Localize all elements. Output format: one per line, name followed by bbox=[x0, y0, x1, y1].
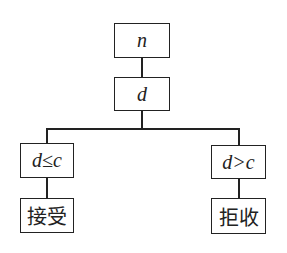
connector-left-down bbox=[46, 128, 48, 143]
connector-n-d bbox=[141, 58, 143, 77]
connector-d-split bbox=[141, 111, 143, 129]
node-accept: 接受 bbox=[20, 198, 74, 233]
condition-gt-label: d>c bbox=[222, 151, 254, 174]
node-condition-gt: d>c bbox=[211, 145, 266, 179]
connector-horizontal bbox=[46, 128, 239, 130]
node-condition-le: d≤c bbox=[20, 143, 74, 178]
node-n-label: n bbox=[137, 29, 147, 52]
condition-le-label: d≤c bbox=[32, 149, 62, 172]
connector-right-down bbox=[238, 128, 240, 145]
connector-left-result bbox=[46, 178, 48, 198]
node-n: n bbox=[114, 23, 170, 58]
node-d-label: d bbox=[137, 83, 147, 106]
accept-label: 接受 bbox=[27, 201, 67, 230]
connector-right-result bbox=[238, 179, 240, 198]
node-d: d bbox=[114, 77, 170, 111]
reject-label: 拒收 bbox=[219, 202, 259, 231]
node-reject: 拒收 bbox=[211, 198, 266, 234]
